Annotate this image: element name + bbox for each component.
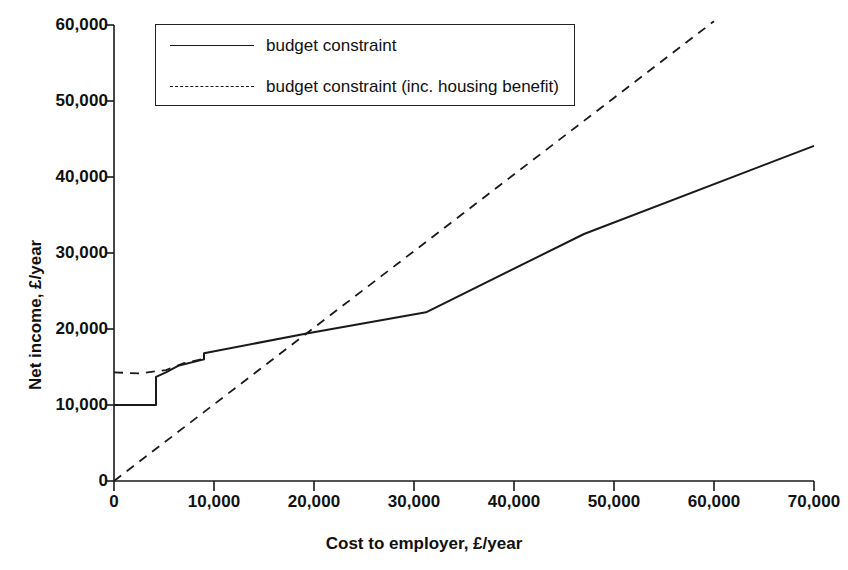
x-tick-label: 60,000 (659, 492, 769, 512)
y-tick-label: 0 (16, 471, 108, 491)
legend-item-label: budget constraint (inc. housing benefit) (254, 77, 559, 97)
x-tick-label: 20,000 (259, 492, 369, 512)
x-tick-label: 10,000 (159, 492, 269, 512)
series-line-1 (114, 359, 204, 374)
y-tick-label: 40,000 (16, 167, 108, 187)
legend-solid-line-swatch (170, 39, 254, 53)
x-ticks (114, 481, 814, 491)
x-tick-label: 0 (59, 492, 169, 512)
chart-legend: budget constraint budget constraint (inc… (155, 24, 575, 106)
legend-item-budget-constraint: budget constraint (156, 25, 574, 66)
x-tick-label: 70,000 (759, 492, 848, 512)
chart-figure: 60,000 50,000 40,000 30,000 20,000 10,00… (0, 0, 848, 570)
y-tick-label: 60,000 (16, 15, 108, 35)
x-tick-label: 40,000 (459, 492, 569, 512)
legend-item-label: budget constraint (254, 36, 396, 56)
legend-dashed-line-swatch (170, 80, 254, 94)
y-tick-label: 10,000 (16, 395, 108, 415)
series-line-0 (114, 146, 814, 405)
x-axis-title: Cost to employer, £/year (0, 534, 848, 554)
plot-area: 60,000 50,000 40,000 30,000 20,000 10,00… (0, 0, 848, 570)
y-axis-title: Net income, £/year (26, 240, 46, 390)
y-tick-label: 50,000 (16, 91, 108, 111)
x-tick-label: 30,000 (359, 492, 469, 512)
x-tick-label: 50,000 (559, 492, 669, 512)
legend-item-budget-constraint-housing-benefit: budget constraint (inc. housing benefit) (156, 66, 574, 107)
